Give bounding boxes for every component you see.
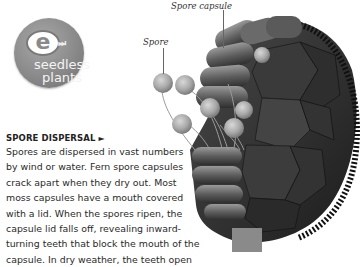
body-line: by wind or water. Fern spore capsules: [6, 159, 206, 174]
body-line: Spores are dispersed in vast numbers: [6, 144, 206, 159]
category-badge[interactable]: e ⏭ seedless plants: [14, 18, 84, 88]
badge-label-line2: plants: [32, 71, 92, 84]
section-heading-text: SPORE DISPERSAL: [6, 133, 95, 143]
body-line: crack apart when they dry out. Most: [6, 175, 206, 190]
badge-label: seedless plants: [32, 58, 92, 84]
label-spore: Spore: [143, 37, 168, 47]
section-heading: SPORE DISPERSAL ►: [6, 133, 105, 143]
spore-leader-line: [163, 48, 164, 74]
spore-capsule-leader-line: [223, 10, 224, 48]
fast-forward-icon: ⏭: [58, 38, 65, 49]
right-arrow-icon: ►: [99, 134, 105, 143]
body-line: moss capsules have a mouth covered: [6, 190, 206, 205]
body-line: capsule lid falls off, revealing inward-: [6, 221, 206, 236]
body-line: with a lid. When the spores ripen, the: [6, 206, 206, 221]
label-spore-capsule: Spore capsule: [171, 1, 232, 11]
capsule-teeth-lower: [192, 145, 326, 252]
body-line: turning teeth that block the mouth of th…: [6, 236, 206, 251]
e-logo-icon: e: [26, 30, 60, 56]
section-body: Spores are dispersed in vast numbers by …: [6, 144, 206, 267]
body-line: capsule. In dry weather, the teeth open: [6, 252, 206, 267]
